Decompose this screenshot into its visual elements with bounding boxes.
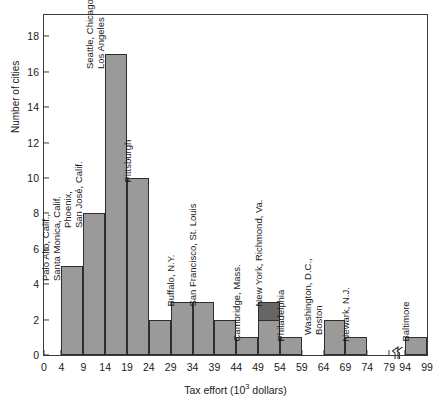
bar-annotation: Baltimore bbox=[400, 302, 411, 342]
y-tick-label: 14 bbox=[27, 102, 39, 113]
bar-annotation: Philadelphia bbox=[275, 290, 286, 342]
bar-annotation: Cambridge, Mass. bbox=[231, 265, 242, 342]
bar-annotation-line: Los Angeles bbox=[95, 0, 106, 69]
histogram-bar[interactable] bbox=[83, 213, 105, 355]
bar-annotation-line: Palo Alto, Calif., bbox=[41, 196, 52, 281]
bar-annotation-line: Pittsburgh bbox=[122, 140, 133, 183]
x-tick-mark bbox=[43, 350, 44, 355]
histogram-bar[interactable] bbox=[127, 178, 149, 355]
x-tick-label: 79 bbox=[383, 362, 395, 373]
y-tick-mark bbox=[44, 284, 49, 285]
x-tick-label: 34 bbox=[187, 362, 199, 373]
x-tick-label: 44 bbox=[230, 362, 242, 373]
x-tick-label: 9 bbox=[80, 362, 86, 373]
x-tick-label: 39 bbox=[209, 362, 221, 373]
histogram-figure: Number of cities 024681012141618 0491419… bbox=[0, 0, 444, 419]
y-tick-label: 6 bbox=[33, 244, 39, 255]
y-tick-mark bbox=[44, 107, 49, 108]
bar-annotation-line: Washington, D.C., bbox=[303, 258, 314, 335]
histogram-bar[interactable] bbox=[149, 320, 171, 355]
bar-annotation: Newark, N.J. bbox=[341, 287, 352, 341]
bar-annotation-line: Newark, N.J. bbox=[341, 287, 352, 341]
x-tick-label: 64 bbox=[318, 362, 330, 373]
bar-annotation-line: Philadelphia bbox=[275, 290, 286, 342]
y-tick-label: 10 bbox=[27, 173, 39, 184]
x-tick-label: 69 bbox=[340, 362, 352, 373]
y-tick-mark bbox=[44, 36, 49, 37]
bar-annotation-line: Boston bbox=[314, 258, 325, 335]
y-tick-label: 4 bbox=[33, 279, 39, 290]
histogram-bar[interactable] bbox=[193, 302, 215, 355]
y-tick-mark bbox=[44, 354, 49, 355]
bar-annotation: Pittsburgh bbox=[122, 140, 133, 183]
bar-annotation: Palo Alto, Calif.,Santa Monica, Calif. bbox=[41, 196, 62, 281]
bar-annotation: Seattle, Chicago,Los Angeles bbox=[85, 0, 106, 69]
x-tick-label: 49 bbox=[252, 362, 264, 373]
y-tick-mark bbox=[44, 142, 49, 143]
y-tick-label: 8 bbox=[33, 208, 39, 219]
bar-annotation: Buffalo, N.Y. bbox=[166, 254, 177, 306]
x-tick-label: 99 bbox=[421, 362, 433, 373]
x-tick-label: 29 bbox=[165, 362, 177, 373]
histogram-bar[interactable] bbox=[105, 54, 127, 355]
x-tick-label: 14 bbox=[99, 362, 111, 373]
bar-annotation: Washington, D.C.,Boston bbox=[303, 258, 324, 335]
x-tick-label: 4 bbox=[59, 362, 65, 373]
y-axis-label: Number of cities bbox=[10, 61, 21, 133]
bar-annotation-line: San Francisco, St. Louis bbox=[188, 203, 199, 306]
x-tick-label: 94 bbox=[399, 362, 411, 373]
bar-annotation-line: Buffalo, N.Y. bbox=[166, 254, 177, 306]
bar-annotation-line: Santa Monica, Calif. bbox=[51, 196, 62, 281]
bar-annotation-line: Phoenix, bbox=[63, 162, 74, 229]
x-axis-label-prefix: Tax effort (10 bbox=[184, 384, 245, 396]
x-tick-label: 19 bbox=[121, 362, 133, 373]
top-cropped-artifact bbox=[38, 0, 198, 9]
x-tick-mark bbox=[389, 350, 390, 355]
bar-annotation-line: Seattle, Chicago, bbox=[85, 0, 96, 69]
y-tick-mark bbox=[44, 177, 49, 178]
bar-annotation: New York, Richmond, Va. bbox=[253, 199, 264, 306]
x-tick-label: 59 bbox=[296, 362, 308, 373]
histogram-bar[interactable] bbox=[61, 266, 83, 355]
y-tick-label: 12 bbox=[27, 137, 39, 148]
bar-annotation-line: Cambridge, Mass. bbox=[231, 265, 242, 342]
y-tick-label: 2 bbox=[33, 314, 39, 325]
x-tick-label: 54 bbox=[274, 362, 286, 373]
axis-break-icon bbox=[391, 346, 403, 359]
y-tick-label: 0 bbox=[33, 350, 39, 361]
histogram-bar[interactable] bbox=[171, 302, 193, 355]
x-tick-label: 74 bbox=[361, 362, 373, 373]
x-axis-label-suffix: dollars) bbox=[249, 384, 286, 396]
bar-annotation-line: Baltimore bbox=[400, 302, 411, 342]
x-tick-label: 0 bbox=[41, 362, 47, 373]
y-tick-label: 16 bbox=[27, 66, 39, 77]
bar-annotation: San Francisco, St. Louis bbox=[188, 203, 199, 306]
bar-annotation-line: San José, Calif. bbox=[73, 162, 84, 229]
y-tick-label: 18 bbox=[27, 31, 39, 42]
y-tick-mark bbox=[44, 71, 49, 72]
x-tick-label: 24 bbox=[143, 362, 155, 373]
x-axis-label: Tax effort (103 dollars) bbox=[184, 382, 287, 396]
plot-area: Number of cities 024681012141618 0491419… bbox=[44, 15, 427, 355]
bar-annotation-line: New York, Richmond, Va. bbox=[253, 199, 264, 306]
y-tick-mark bbox=[44, 319, 49, 320]
bar-annotation: Phoenix,San José, Calif. bbox=[63, 162, 84, 229]
